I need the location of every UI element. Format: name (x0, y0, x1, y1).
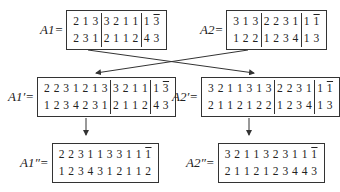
matrix-label: A2″= (186, 155, 215, 171)
matrix-body: 2 2 3 1 1 3 3 1 1 11 2 3 4 3 1 2 1 1 2 (52, 143, 159, 183)
matrix-segment: 1 3 (150, 80, 171, 97)
matrix-segment: 4 3 (150, 97, 171, 114)
matrix-label: A2= (200, 22, 223, 38)
matrix-segment: 4 3 (141, 30, 162, 47)
matrix-segment: 1 2 3 4 3 1 2 1 1 2 (57, 163, 154, 180)
matrix-body: 3 2 1 1 3 1 32 2 3 11 12 1 1 2 1 2 21 2 … (201, 77, 340, 117)
matrix-segment: 1 1 (301, 13, 322, 30)
matrix-row: 2 2 3 1 2 1 33 2 1 11 3 (42, 80, 171, 97)
matrix-a1-double-prime: A1″= 2 2 3 1 1 3 3 1 1 11 2 3 4 3 1 2 1 … (20, 143, 159, 183)
matrix-segment: 1 2 3 4 2 3 1 (42, 97, 110, 114)
matrix-segment: 2 1 1 2 1 2 3 4 4 3 (223, 163, 320, 180)
matrix-segment: 1 2 3 4 (261, 30, 301, 47)
matrix-segment: 2 3 1 (71, 30, 101, 47)
matrix-row: 1 2 21 2 3 41 3 (231, 30, 322, 47)
matrix-a1-prime: A1′= 2 2 3 1 2 1 33 2 1 11 31 2 3 4 2 3 … (8, 77, 176, 117)
matrix-segment: 2 1 1 2 1 2 2 (206, 97, 274, 114)
matrix-body: 2 2 3 1 2 1 33 2 1 11 31 2 3 4 2 3 12 1 … (37, 77, 176, 117)
matrix-segment: 2 1 1 2 (101, 30, 141, 47)
matrix-segment: 1 3 (314, 97, 335, 114)
matrix-segment: 2 2 3 1 1 3 3 1 1 1 (57, 146, 154, 163)
matrix-segment: 2 1 3 (71, 13, 101, 30)
matrix-segment: 3 2 1 1 (110, 80, 150, 97)
matrix-row: 2 1 1 2 1 2 3 4 4 3 (223, 163, 320, 180)
matrix-segment: 1 2 2 (231, 30, 261, 47)
matrix-body: 2 1 33 2 1 11 32 3 12 1 1 24 3 (66, 10, 167, 50)
matrix-a2: A2= 3 1 32 2 3 11 11 2 21 2 3 41 3 (200, 10, 327, 50)
matrix-body: 3 1 32 2 3 11 11 2 21 2 3 41 3 (226, 10, 327, 50)
matrix-segment: 3 2 1 1 (101, 13, 141, 30)
matrix-segment: 2 1 1 2 (110, 97, 150, 114)
matrix-row: 2 1 1 2 1 2 21 2 3 41 3 (206, 97, 335, 114)
arrow-a2-to-a1prime (96, 50, 248, 73)
matrix-row: 3 1 32 2 3 11 1 (231, 13, 322, 30)
matrix-segment: 1 3 (301, 30, 322, 47)
matrix-segment: 3 2 1 1 3 1 3 (206, 80, 274, 97)
matrix-label: A1″= (20, 155, 49, 171)
matrix-segment: 2 2 3 1 2 1 3 (42, 80, 110, 97)
matrix-segment: 3 1 3 (231, 13, 261, 30)
matrix-a2-double-prime: A2″= 3 2 1 1 3 2 3 1 1 12 1 1 2 1 2 3 4 … (186, 143, 325, 183)
matrix-row: 2 2 3 1 1 3 3 1 1 1 (57, 146, 154, 163)
matrix-label: A1= (40, 22, 63, 38)
matrix-segment: 1 3 (141, 13, 162, 30)
matrix-a2-prime: A2′= 3 2 1 1 3 1 32 2 3 11 12 1 1 2 1 2 … (172, 77, 340, 117)
matrix-a1: A1= 2 1 33 2 1 11 32 3 12 1 1 24 3 (40, 10, 167, 50)
matrix-row: 1 2 3 4 3 1 2 1 1 2 (57, 163, 154, 180)
matrix-label: A2′= (172, 89, 198, 105)
matrix-label: A1′= (8, 89, 34, 105)
matrix-row: 1 2 3 4 2 3 12 1 1 24 3 (42, 97, 171, 114)
matrix-row: 2 3 12 1 1 24 3 (71, 30, 162, 47)
matrix-row: 3 2 1 1 3 1 32 2 3 11 1 (206, 80, 335, 97)
matrix-segment: 2 2 3 1 (274, 80, 314, 97)
matrix-segment: 1 2 3 4 (274, 97, 314, 114)
matrix-segment: 3 2 1 1 3 2 3 1 1 1 (223, 146, 320, 163)
matrix-row: 3 2 1 1 3 2 3 1 1 1 (223, 146, 320, 163)
matrix-segment: 2 2 3 1 (261, 13, 301, 30)
matrix-row: 2 1 33 2 1 11 3 (71, 13, 162, 30)
matrix-body: 3 2 1 1 3 2 3 1 1 12 1 1 2 1 2 3 4 4 3 (218, 143, 325, 183)
matrix-segment: 1 1 (314, 80, 335, 97)
